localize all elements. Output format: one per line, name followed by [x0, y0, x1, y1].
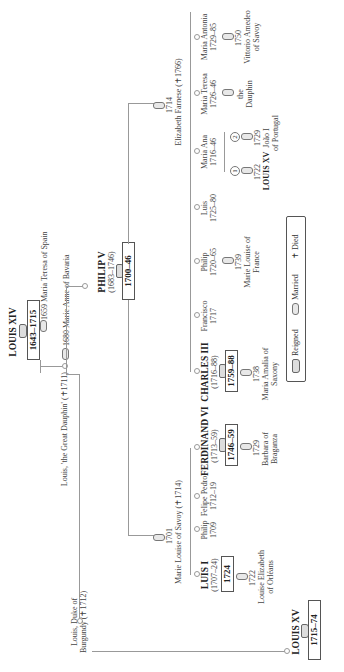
luis-name: Luis [200, 188, 209, 228]
ferdinand-vi-dates: (1713–59) [210, 416, 219, 476]
felipe-pedro-dates: 1712–19 [209, 470, 218, 522]
ring-icon [222, 33, 234, 40]
maria-ana-m2-spouse-line2: of Portugal [271, 108, 280, 158]
node [82, 283, 88, 289]
luis-dates: 1725–80 [209, 188, 218, 228]
philip-1720-spouse-line2: France [252, 226, 261, 298]
ring-icon [292, 303, 299, 315]
maria-antonia-dates: 1729–85 [209, 6, 218, 68]
ferdinand-spouse-line2: Braganza [270, 416, 279, 482]
connector [128, 104, 129, 244]
family-tree: LOUIS XIV 1643–1715 1659 Maria Teresa of… [0, 0, 344, 672]
connector [40, 360, 41, 373]
maria-teresa-dates: 1726–46 [209, 68, 218, 120]
louis-xv-reign: 1715–74 [308, 600, 321, 660]
duke-burgundy-line1: Louis, Duke of [70, 577, 79, 667]
duke-burgundy-line2: Burgundy (✝1712) [79, 577, 88, 667]
node [62, 363, 68, 369]
maria-teresa-spouse-line2: Dauphin [245, 72, 254, 116]
charles-iii-name: CHARLES III [200, 342, 210, 402]
francisco-name: Francisco [200, 294, 209, 338]
luis-i-spouse-line1: Louise Elizabeth [257, 532, 266, 622]
ring-icon [236, 573, 248, 580]
louis-xiv-marriage: 1659 Maria Teresa of Spain [40, 231, 49, 320]
maria-teresa-spouse-line1: the [236, 78, 245, 110]
connector [98, 651, 288, 652]
marriage2-year: 1714 [165, 93, 174, 117]
charles-iii-dates: (1716–88) [210, 342, 219, 402]
marriage-number-2: 2 [230, 132, 240, 142]
ring-icon [40, 320, 47, 332]
ring-icon [222, 89, 234, 96]
maria-ana-m2-year: 1729 [253, 128, 262, 148]
ring-icon [240, 443, 252, 450]
crown-icon [292, 359, 300, 373]
philip-1720-dates: 1720–65 [209, 242, 218, 282]
maria-antonia-spouse-line1: Vittorio Amedeo [243, 2, 252, 72]
connector [224, 132, 225, 172]
charles-spouse-line2: Saxony [270, 338, 279, 410]
maria-antonia-spouse-line2: of Savoy [252, 2, 261, 72]
louis-xiv-name: LOUIS XIV [8, 292, 18, 372]
maria-ana-m1-year: 1722 [253, 162, 262, 182]
great-dauphin-name: Louis, 'the Great Dauphin' (✝1711) [60, 372, 69, 532]
maria-teresa-name: Maria Teresa [200, 68, 209, 120]
philip-1720-marriage-year: 1739 [234, 252, 243, 272]
ferdinand-marriage-year: 1729 [252, 438, 261, 458]
luis-i-reign: 1724 [221, 556, 234, 592]
crown-icon [19, 324, 27, 338]
philip-v-reign: 1700–46 [122, 242, 135, 300]
legend-reigned: Reigned [287, 329, 305, 373]
philip-v-dates: (1683–1746) [107, 237, 116, 307]
ring-icon [153, 534, 165, 541]
legend-died-label: ✝ Died [287, 234, 305, 259]
ring-icon [240, 369, 252, 376]
connector [190, 12, 191, 372]
connector [40, 366, 62, 367]
legend-married-label: Married [291, 274, 300, 300]
louis-xiv-reign: 1643–1715 [27, 300, 40, 360]
connector [190, 448, 191, 575]
ferdinand-spouse-line1: Barbara of [261, 416, 270, 482]
marriage1-spouse: Marie Louise of Savoy (✝1714) [174, 452, 183, 612]
maria-antonia-name: Maria Antonia [200, 6, 209, 68]
maria-ana-dates: 1716–46 [209, 128, 218, 176]
philip-v-name: PHILIP V [97, 237, 107, 307]
maria-ana-name: Maria Ana [200, 128, 209, 176]
legend-reigned-label: Reigned [291, 329, 300, 356]
node [284, 648, 290, 654]
ring-icon [153, 102, 165, 109]
ring-icon [241, 167, 253, 174]
ferdinand-vi-name: FERDINAND VI [200, 416, 210, 476]
ring-icon [241, 133, 253, 140]
marriage-number-1: 1 [230, 166, 240, 176]
philip-1720-name: Philip [200, 242, 209, 282]
luis-i-name: LUIS I [200, 548, 210, 602]
connector [66, 286, 67, 375]
marriage1-year: 1701 [165, 526, 174, 546]
luis-i-spouse-line2: of Orléans [266, 532, 275, 622]
marriage2-spouse: Elizabeth Farnese (✝1766) [174, 32, 183, 172]
luis-i-marriage-year: 1722 [248, 568, 257, 588]
francisco-dates: 1717 [209, 294, 218, 338]
charles-iii-reign: 1759–88 [225, 350, 238, 392]
louis-xv-name: LOUIS XV [291, 592, 301, 672]
charles-marriage-year: 1738 [252, 364, 261, 384]
ferdinand-vi-reign: 1746–59 [225, 424, 238, 466]
maria-ana-m2-spouse-line1: João I [262, 118, 271, 158]
maria-antonia-marriage-year: 1750 [234, 28, 243, 48]
connector [128, 300, 129, 536]
felipe-pedro-name: Felipe Pedro [200, 470, 209, 522]
charles-spouse-line1: Maria Amalia of [261, 338, 270, 410]
ring-icon [222, 257, 234, 264]
legend: Reigned Married ✝ Died [286, 216, 306, 382]
connector [66, 374, 80, 375]
legend-married: Married [287, 274, 305, 315]
philip-1720-spouse-line1: Marie Louise of [243, 226, 252, 298]
luis-i-dates: (1707–24) [210, 548, 219, 602]
